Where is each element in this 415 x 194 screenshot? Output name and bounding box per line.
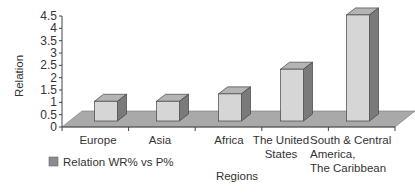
y-tick-label: 3.5 [40,34,57,48]
legend: Relation WR% vs P% [49,156,174,168]
bar [347,8,379,121]
bar [95,94,127,121]
y-tick-label: 4.5 [40,9,57,23]
y-tick-label: 4 [50,21,57,35]
bar-chart: 00.511.522.533.544.5 EuropeAsiaAfricaThe… [0,0,415,194]
y-axis: 00.511.522.533.544.5 [40,9,62,134]
x-tick-label: Europe [79,134,116,146]
y-tick-label: 1 [50,95,57,109]
x-tick-label: The UnitedStates [253,134,309,160]
legend-label: Relation WR% vs P% [63,156,174,168]
y-tick-label: 2.5 [40,58,57,72]
x-axis-label: Regions [216,170,258,182]
y-tick-label: 0.5 [40,108,57,122]
bar [281,62,313,121]
y-axis-label: Relation [13,55,25,97]
y-tick-label: 1.5 [40,83,57,97]
legend-swatch [49,157,58,166]
x-tick-label: Africa [214,134,244,146]
bars [95,8,379,121]
y-tick-label: 2 [50,71,57,85]
x-tick-label: South & CentralAmerica,The Caribbean [310,134,391,174]
y-tick-label: 3 [50,46,57,60]
x-tick-label: Asia [149,134,172,146]
y-tick-label: 0 [50,120,57,134]
bar [219,87,251,121]
bar [157,94,189,121]
